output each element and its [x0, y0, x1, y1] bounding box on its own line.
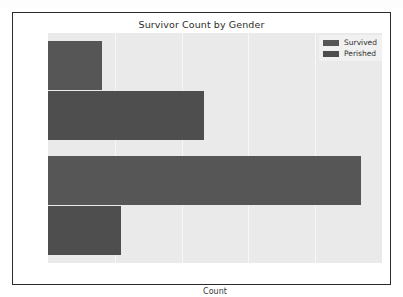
chart-figure: Survivor Count by Gender WomenMen0100200… [12, 12, 391, 285]
bar-women-perished [48, 91, 204, 140]
capture-top-edge [0, 0, 403, 9]
legend-label-perished: Perished [344, 49, 376, 58]
legend-entry-survived[interactable]: Survived [323, 38, 377, 47]
screenshot-canvas: Survivor Count by Gender WomenMen0100200… [0, 0, 403, 297]
legend-label-survived: Survived [344, 38, 377, 47]
chart-title: Survivor Count by Gender [13, 19, 390, 30]
legend-entry-perished[interactable]: Perished [323, 49, 377, 58]
gridline-x-400 [315, 33, 316, 263]
plot-area: WomenMen0100200300400500 [48, 33, 382, 263]
bar-men-perished [48, 206, 121, 255]
gridline-x-300 [248, 33, 249, 263]
bar-men-survived [48, 156, 361, 205]
legend-swatch-survived [323, 40, 339, 46]
x-axis-label: Count [48, 287, 382, 296]
legend-swatch-perished [323, 51, 339, 57]
gridline-x-200 [182, 33, 183, 263]
chart-legend: Survived Perished [319, 35, 382, 61]
bar-women-survived [48, 41, 102, 90]
